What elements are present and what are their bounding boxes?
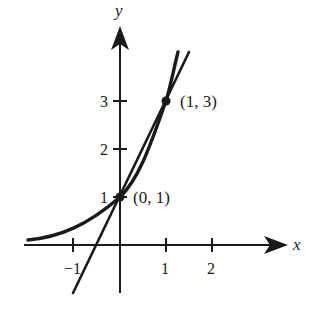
y-axis-label: y: [113, 1, 123, 20]
graph: x y −1 1 2 1 2 3 (0, 1) (1, 3): [0, 0, 316, 313]
y-axis: [111, 26, 129, 293]
secant-line: [73, 52, 189, 293]
y-tick-label-3: 3: [100, 93, 108, 110]
y-tick-label-2: 2: [100, 141, 108, 158]
point-0-1: [116, 193, 125, 202]
x-axis: [24, 236, 288, 254]
point-label-0-1: (0, 1): [133, 188, 170, 207]
x-tick-label-neg1: −1: [64, 260, 81, 277]
y-tick-label-1: 1: [100, 189, 108, 206]
point-label-1-3: (1, 3): [180, 92, 217, 111]
point-1-3: [162, 97, 171, 106]
x-tick-label-2: 2: [207, 260, 215, 277]
x-tick-label-1: 1: [161, 260, 169, 277]
x-axis-label: x: [292, 235, 301, 254]
